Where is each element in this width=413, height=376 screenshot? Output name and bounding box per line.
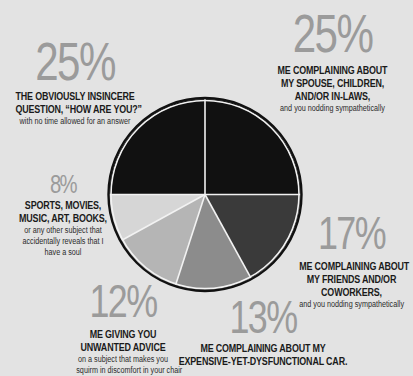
percent-car: 13% xyxy=(181,296,345,338)
subtext-line: and you nodding sympathetically xyxy=(271,103,394,114)
subtext-line: squirm in discomfort in your chair xyxy=(76,365,170,376)
heading-line: UNWANTED ADVICE xyxy=(76,341,170,354)
heading-line: THE OBVIOUSLY INSINCERE xyxy=(16,90,135,103)
percent-spouse: 25% xyxy=(276,8,389,58)
heading-line: QUESTION, “HOW ARE YOU?” xyxy=(16,103,135,116)
percent-friends: 17% xyxy=(304,212,400,254)
label-spouse: 25% ME COMPLAINING ABOUT MY SPOUSE, CHIL… xyxy=(260,8,405,114)
percent-how-are-you: 25% xyxy=(20,36,129,86)
percent-sports: 8% xyxy=(20,172,106,196)
heading-line: EXPENSIVE-YET-DYSFUNCTIONAL CAR. xyxy=(174,355,353,368)
heading-line: MUSIC, ART, BOOKS, xyxy=(16,212,110,225)
heading-line: ME COMPLAINING ABOUT xyxy=(299,260,404,273)
subtext-line: on a subject that makes you xyxy=(76,354,170,365)
subtext-line: have a soul xyxy=(16,247,110,258)
heading-line: ME COMPLAINING ABOUT MY xyxy=(174,342,353,355)
heading-line: MY FRIENDS AND/OR xyxy=(299,273,404,286)
label-sports: 8% SPORTS, MOVIES, MUSIC, ART, BOOKS, or… xyxy=(8,172,118,258)
subtext-line: or any other subject that xyxy=(16,225,110,236)
subtext-line: accidentally reveals that I xyxy=(16,236,110,247)
heading-line: AND/OR IN-LAWS, xyxy=(271,90,394,103)
label-how-are-you: 25% THE OBVIOUSLY INSINCERE QUESTION, “H… xyxy=(5,36,145,127)
subtext-line: with no time allowed for an answer xyxy=(16,116,135,127)
heading-line: ME GIVING YOU xyxy=(76,328,170,341)
heading-line: ME COMPLAINING ABOUT xyxy=(271,64,394,77)
heading-line: MY SPOUSE, CHILDREN, xyxy=(271,77,394,90)
heading-line: SPORTS, MOVIES, xyxy=(16,199,110,212)
percent-advice: 12% xyxy=(80,280,166,322)
label-car: 13% ME COMPLAINING ABOUT MY EXPENSIVE-YE… xyxy=(158,296,368,368)
